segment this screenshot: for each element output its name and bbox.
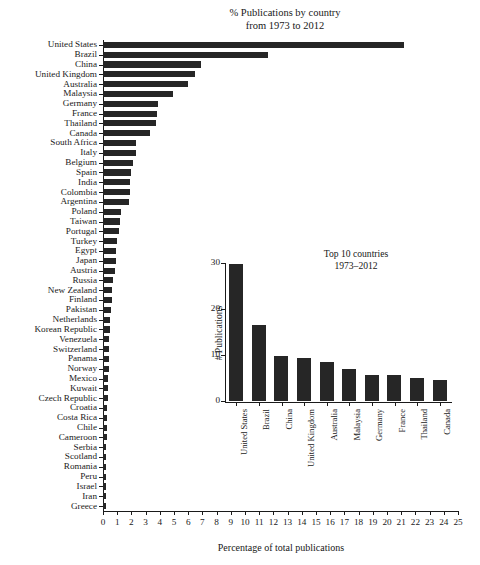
main-y-tick-label: Cameroon	[59, 433, 97, 442]
main-bar	[103, 101, 158, 107]
main-x-tick-label: 2	[129, 517, 134, 527]
main-x-tick-label: 13	[283, 517, 292, 527]
main-y-tick-label: Brazil	[75, 50, 97, 59]
main-x-tick-label: 6	[186, 517, 191, 527]
main-y-tick	[99, 55, 103, 56]
main-y-tick-label: Finland	[69, 295, 97, 304]
main-y-tick	[99, 65, 103, 66]
main-y-tick-label: Taiwan	[70, 217, 97, 226]
inset-x-tick-label: France	[398, 409, 407, 432]
inset-y-tick-label: 30	[211, 258, 220, 267]
main-y-tick-label: France	[72, 109, 97, 118]
main-bar	[103, 238, 117, 244]
main-bar	[103, 336, 109, 342]
main-x-tick	[316, 511, 317, 515]
bar-row: Portugal	[103, 228, 458, 234]
main-x-tick-label: 14	[297, 517, 306, 527]
main-x-tick-label: 0	[101, 517, 106, 527]
main-y-tick	[99, 192, 103, 193]
main-y-tick	[99, 212, 103, 213]
main-y-tick-label: Pakistan	[66, 305, 97, 314]
main-y-tick-label: Austria	[70, 266, 97, 275]
main-bar	[103, 307, 111, 313]
main-x-tick-label: 24	[439, 517, 448, 527]
main-x-tick	[231, 511, 232, 515]
main-x-tick	[373, 511, 374, 515]
main-bar	[103, 189, 130, 195]
main-y-tick	[99, 222, 103, 223]
main-bar	[103, 150, 136, 156]
main-y-tick-label: Netherlands	[53, 315, 97, 324]
inset-x-tick	[259, 402, 260, 406]
bar-row: Turkey	[103, 238, 458, 244]
main-y-tick-label: Turkey	[71, 237, 97, 246]
inset-x-tick-label: Brazil	[262, 409, 271, 430]
main-x-tick	[146, 511, 147, 515]
main-bar	[103, 61, 201, 67]
main-x-tick-label: 19	[368, 517, 377, 527]
main-x-tick	[444, 511, 445, 515]
main-bar	[103, 425, 107, 431]
main-x-tick-label: 21	[397, 517, 406, 527]
inset-x-tick	[304, 402, 305, 406]
main-y-tick	[99, 457, 103, 458]
main-y-tick-label: Greece	[71, 502, 97, 511]
main-x-tick	[401, 511, 402, 515]
main-bar	[103, 81, 188, 87]
main-y-tick	[99, 506, 103, 507]
inset-bar	[320, 362, 334, 401]
bar-row: Brazil	[103, 52, 458, 58]
main-bar	[103, 483, 106, 489]
main-bar	[103, 169, 131, 175]
main-bar	[103, 464, 106, 470]
main-x-tick-label: 10	[240, 517, 249, 527]
main-x-tick	[430, 511, 431, 515]
main-x-tick	[387, 511, 388, 515]
bar-row: France	[103, 111, 458, 117]
main-y-tick	[99, 114, 103, 115]
main-bar	[103, 356, 109, 362]
main-x-tick	[288, 511, 289, 515]
main-y-tick	[99, 123, 103, 124]
bar-row: Poland	[103, 209, 458, 215]
main-x-tick	[160, 511, 161, 515]
inset-x-tick	[372, 402, 373, 406]
inset-x-tick-label: United States	[240, 409, 249, 455]
main-y-tick	[99, 329, 103, 330]
main-y-tick	[99, 94, 103, 95]
main-bar	[103, 209, 121, 215]
bar-row: United States	[103, 42, 458, 48]
main-bar	[103, 375, 108, 381]
inset-bar	[342, 369, 356, 401]
main-x-tick-label: 16	[326, 517, 335, 527]
main-y-tick	[99, 261, 103, 262]
inset-bar	[433, 380, 447, 401]
bar-row: Taiwan	[103, 218, 458, 224]
inset-y-tick-label: 0	[215, 396, 220, 405]
main-x-tick-label: 25	[453, 517, 462, 527]
main-bar	[103, 474, 106, 480]
inset-x-tick	[282, 402, 283, 406]
inset-y-tick	[221, 355, 225, 356]
main-y-tick	[99, 153, 103, 154]
main-bar	[103, 444, 106, 450]
main-y-tick	[99, 104, 103, 105]
main-y-tick-label: Egypt	[75, 246, 97, 255]
main-x-axis-line	[103, 511, 459, 512]
main-y-tick	[99, 369, 103, 370]
main-x-tick-label: 23	[425, 517, 434, 527]
main-y-tick-label: Canada	[69, 129, 97, 138]
inset-x-tick	[349, 402, 350, 406]
main-y-tick-label: Colombia	[61, 188, 97, 197]
bar-row: Australia	[103, 81, 458, 87]
main-x-tick-label: 9	[229, 517, 234, 527]
main-x-tick	[344, 511, 345, 515]
main-x-tick	[117, 511, 118, 515]
main-bar	[103, 258, 116, 264]
main-x-tick-label: 11	[255, 517, 264, 527]
inset-x-tick-label: United Kingdom	[307, 409, 316, 467]
main-x-tick	[302, 511, 303, 515]
inset-chart: Top 10 countries 1973–2012 # Publication…	[196, 248, 471, 498]
main-y-tick	[99, 398, 103, 399]
main-bar	[103, 297, 112, 303]
